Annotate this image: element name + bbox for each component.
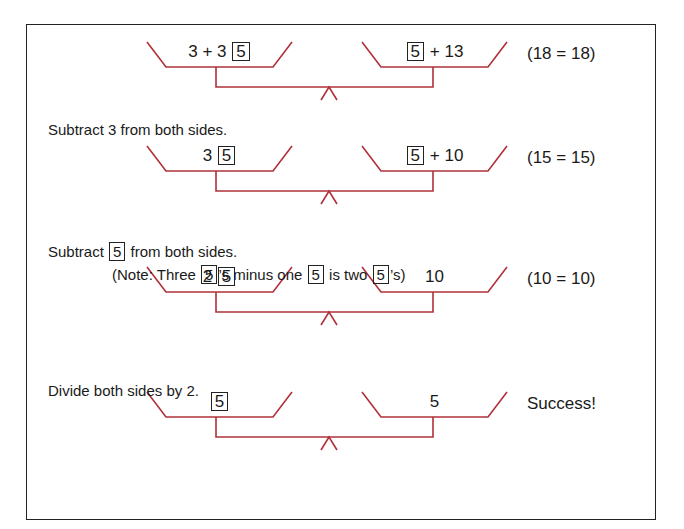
unknown-box: 5	[407, 146, 424, 165]
unknown-box: 5	[407, 42, 424, 61]
instruction-step-2: Subtract 5 from both sides.	[48, 242, 237, 261]
check-equation-2: (15 = 15)	[527, 148, 596, 168]
check-equation-3: (10 = 10)	[527, 269, 596, 289]
right-pan-text-4: 5	[381, 392, 488, 412]
unknown-box: 5	[308, 265, 324, 284]
instruction-step-1: Subtract 3 from both sides.	[48, 121, 227, 139]
right-pan-text-2: 5 + 10	[381, 146, 488, 166]
unknown-box: 5	[211, 392, 228, 411]
left-pan-text-4: 5	[166, 392, 273, 412]
left-pan-text-1: 3 + 3 5	[166, 42, 273, 62]
check-equation-1: (18 = 18)	[527, 44, 596, 64]
left-pan-text-2: 3 5	[166, 146, 273, 166]
right-pan-text-3: 10	[381, 267, 488, 287]
success-label: Success!	[527, 394, 596, 414]
unknown-box: 5	[109, 242, 125, 261]
left-pan-text-3: 2 5	[166, 267, 273, 287]
unknown-box: 5	[218, 267, 235, 286]
unknown-box: 5	[232, 42, 249, 61]
unknown-box: 5	[218, 146, 235, 165]
right-pan-text-1: 5 + 13	[381, 42, 488, 62]
